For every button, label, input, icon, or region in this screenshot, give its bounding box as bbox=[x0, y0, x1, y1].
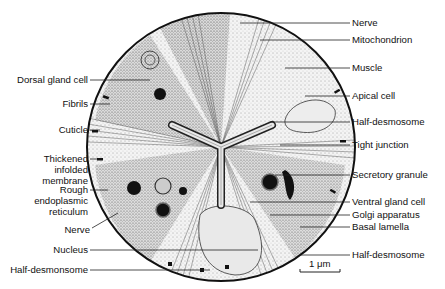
label-thickened-infolded-membrane: Thickened infolded membrane bbox=[42, 153, 88, 186]
secretory-granule-dot bbox=[154, 88, 166, 100]
label-dorsal-gland-cell: Dorsal gland cell bbox=[17, 74, 88, 85]
label-nucleus: Nucleus bbox=[53, 244, 88, 255]
label-rough-endoplasmic-reticulum: Rough endoplasmic reticulum bbox=[34, 184, 88, 217]
diagram-figure: Dorsal gland cell Fibrils Cuticle Thicke… bbox=[0, 0, 445, 289]
label-nerve-left: Nerve bbox=[64, 224, 90, 235]
label-secretory-granule: Secretory granule bbox=[352, 169, 428, 180]
label-cuticle: Cuticle bbox=[59, 124, 88, 135]
label-mitochondrion: Mitochondrion bbox=[352, 34, 412, 45]
label-line: Thickened bbox=[42, 153, 88, 164]
label-fibrils: Fibrils bbox=[62, 98, 88, 109]
label-half-desmosome-lower: Half-desmosome bbox=[352, 249, 425, 260]
label-nerve-right: Nerve bbox=[352, 17, 378, 28]
scale-bar-label: 1 μm bbox=[309, 258, 331, 269]
label-line: Rough bbox=[34, 184, 88, 195]
label-ventral-gland-cell: Ventral gland cell bbox=[352, 196, 425, 207]
label-basal-lamella: Basal lamella bbox=[352, 221, 409, 232]
scale-bar bbox=[300, 269, 340, 272]
label-line: infolded bbox=[42, 164, 88, 175]
label-half-desmosome-upper: Half-desmosome bbox=[352, 116, 425, 127]
label-half-desmonsome-left: Half-desmonsome bbox=[10, 264, 88, 275]
label-muscle: Muscle bbox=[352, 62, 382, 73]
label-golgi-apparatus: Golgi apparatus bbox=[352, 209, 420, 220]
label-apical-cell: Apical cell bbox=[352, 90, 395, 101]
label-line: endoplasmic bbox=[34, 195, 88, 206]
label-tight-junction: Tight junction bbox=[352, 139, 409, 150]
label-line: reticulum bbox=[34, 206, 88, 217]
